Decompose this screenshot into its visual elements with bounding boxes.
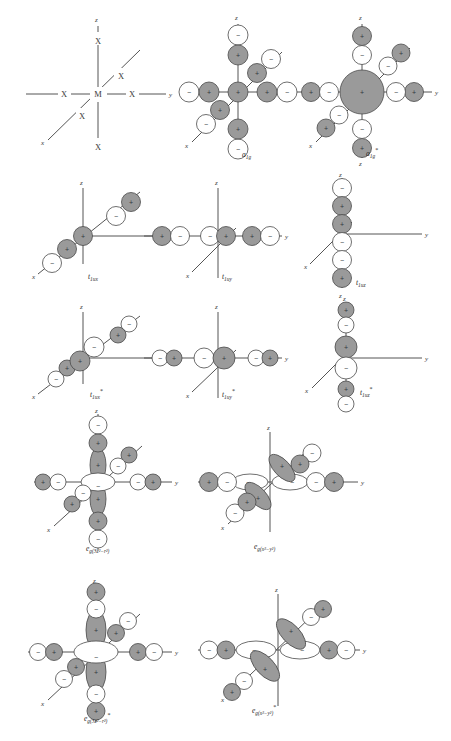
ligand-orbital-x-front: − + <box>224 673 253 701</box>
svg-text:+: + <box>224 647 228 654</box>
axis-label-x: x <box>304 387 309 395</box>
orbital-label-t1uy: t1uy <box>222 270 232 282</box>
orbital-label-t1ux: t1ux <box>88 270 98 282</box>
ligand-orbital-x-back: − + <box>291 444 321 473</box>
svg-text:+: + <box>298 461 302 468</box>
skeleton-ligand-atom-x-back: X <box>118 71 124 81</box>
svg-text:−: − <box>96 483 100 490</box>
ligand-orbital-y-left: + − <box>35 474 66 490</box>
metal-dz2-orbital: + + − <box>74 610 118 692</box>
svg-text:−: − <box>360 52 364 59</box>
svg-text:+: + <box>94 589 98 596</box>
svg-text:+: + <box>280 463 284 470</box>
svg-text:+: + <box>207 89 211 96</box>
svg-text:−: − <box>314 479 318 486</box>
svg-text:−: − <box>340 257 344 264</box>
svg-text:+: + <box>255 70 259 77</box>
svg-text:+: + <box>78 358 82 365</box>
skeleton-center-atom: M <box>94 89 102 99</box>
axis-label-y: y <box>360 479 365 487</box>
svg-text:−: − <box>360 126 364 133</box>
svg-text:+: + <box>412 89 416 96</box>
svg-text:−: − <box>344 401 348 408</box>
svg-text:+: + <box>250 233 254 240</box>
svg-text:−: − <box>236 146 240 153</box>
svg-text:+: + <box>218 107 222 114</box>
ligand-orbital-x-back: + − <box>110 447 137 474</box>
axis-label-y: y <box>174 479 179 487</box>
panel-eg-3z2-r2: z y x + + − − + − + + − − + + − <box>26 408 186 554</box>
svg-text:−: − <box>178 233 182 240</box>
svg-text:−: − <box>204 121 208 128</box>
axis-label-x: x <box>31 393 36 401</box>
ligand-orbital-z-bottom: − + <box>333 251 352 288</box>
panel-eg-x2-y2: z y x − − + + + − − + − + − + eg(x²−y²) <box>192 420 372 540</box>
ligand-orbital-x-back: + − <box>379 44 410 75</box>
svg-text:+: + <box>344 307 348 314</box>
panel-t1uz: z y x − + + − − + t1uz z <box>300 172 430 292</box>
svg-text:−: − <box>94 654 98 661</box>
svg-text:−: − <box>340 239 344 246</box>
svg-text:+: + <box>324 125 328 132</box>
svg-text:+: + <box>114 630 118 637</box>
axis-label-x: x <box>40 139 45 147</box>
skeleton-ligand-atom-y-right: X <box>129 89 135 99</box>
axis-label-x: x <box>40 700 45 708</box>
svg-text:+: + <box>96 518 100 525</box>
svg-text:+: + <box>172 355 176 362</box>
ligand-orbital-z-top: − + <box>228 25 248 65</box>
ligand-orbital-z-top: − + <box>333 179 352 216</box>
svg-text:−: − <box>94 691 98 698</box>
svg-text:+: + <box>245 499 249 506</box>
svg-text:+: + <box>96 462 100 469</box>
svg-text:−: − <box>54 376 58 383</box>
axis-label-x: x <box>31 273 36 281</box>
axis-label-x: x <box>185 392 190 400</box>
svg-text:−: − <box>310 450 314 457</box>
svg-text:−: − <box>114 213 118 220</box>
svg-text:−: − <box>62 676 66 683</box>
panel-a1g-star: z y x + + − + − + − + − + − + − <box>300 8 450 160</box>
axis-label-z: z <box>94 407 98 415</box>
axis-label-x: x <box>220 696 225 704</box>
svg-text:+: + <box>360 89 364 96</box>
svg-text:+: + <box>327 647 331 654</box>
metal-dz2-orbital: + + − <box>81 448 115 516</box>
svg-text:+: + <box>265 89 269 96</box>
svg-text:+: + <box>344 386 348 393</box>
ligand-orbital-x-front: − + <box>226 493 256 522</box>
svg-text:+: + <box>151 479 155 486</box>
svg-text:−: − <box>386 63 390 70</box>
metal-p-orbital: − + <box>70 337 104 371</box>
ligand-orbital-x-front: − + <box>197 101 230 134</box>
svg-text:−: − <box>158 355 162 362</box>
svg-text:−: − <box>225 479 229 486</box>
svg-text:+: + <box>96 496 100 503</box>
svg-text:−: − <box>56 479 60 486</box>
ligand-orbital-x-front: + − <box>317 106 348 137</box>
axis-label-z: z <box>79 179 83 187</box>
metal-s-orbital: + <box>228 82 248 102</box>
ligand-orbital-x-back: − + <box>303 601 332 626</box>
svg-text:+: + <box>360 145 364 152</box>
panel-a1g: z y x − + − + − + − + − + − + <box>178 8 318 160</box>
ligand-orbital-y-right: + − <box>243 227 280 246</box>
svg-text:+: + <box>321 606 325 613</box>
ligand-orbital-y-right: − + <box>248 350 278 366</box>
axis-label-x: x <box>185 272 190 280</box>
svg-text:+: + <box>65 246 69 253</box>
svg-text:+: + <box>268 355 272 362</box>
svg-text:+: + <box>309 89 313 96</box>
orbital-label-t1ux-star: t1ux* <box>90 388 103 400</box>
svg-text:−: − <box>344 365 348 372</box>
panel-t1uy: z y x + − + − − + t1uy <box>140 178 290 286</box>
svg-text:+: + <box>399 50 403 57</box>
svg-text:−: − <box>268 233 272 240</box>
svg-text:+: + <box>360 33 364 40</box>
ligand-orbital-y-left: − + <box>30 644 63 661</box>
axis-label-z: z <box>214 179 218 187</box>
metal-s-orbital-large: + <box>340 70 384 114</box>
axis-label-z: z <box>358 14 362 22</box>
svg-text:+: + <box>263 666 267 673</box>
axis-label-y: y <box>362 647 367 655</box>
